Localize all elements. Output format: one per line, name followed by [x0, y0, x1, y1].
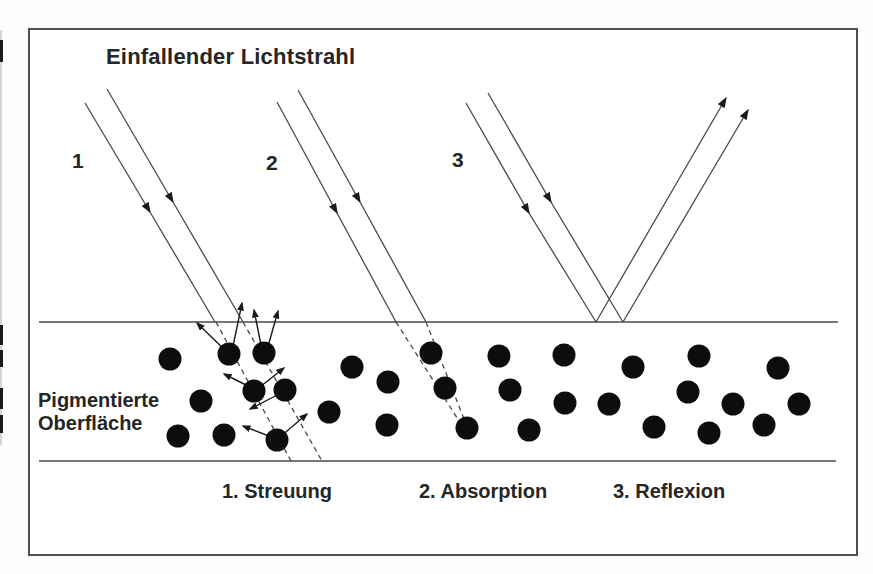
pigment-dot	[698, 422, 721, 445]
absorbed-ray-dashed-2	[426, 322, 464, 419]
pigment-dot	[598, 393, 621, 416]
page: { "labels": { "title": "Einfallender Lic…	[0, 0, 873, 574]
pigment-dot	[488, 345, 511, 368]
reflected-ray-1	[596, 98, 726, 322]
caption-scattering: 1. Streuung	[222, 480, 332, 503]
incident-ray-1-right-a	[107, 89, 173, 202]
pigment-dot	[190, 390, 213, 413]
title-incident-light-beam: Einfallender Lichtstrahl	[106, 44, 355, 70]
incident-ray-1-left-b	[150, 212, 215, 322]
pigment-dot	[420, 342, 443, 365]
incident-ray-2-left-b	[337, 213, 396, 322]
incident-ray-1-right-b	[173, 202, 243, 322]
pigment-dot	[159, 348, 182, 371]
pigment-dot	[167, 425, 190, 448]
incident-ray-3-left-b	[529, 213, 596, 322]
pigment-dot	[622, 356, 645, 379]
absorbed-ray-dashed-1	[396, 322, 461, 424]
pigment-dot	[677, 381, 700, 404]
incident-ray-2-left-a	[277, 102, 337, 213]
incident-ray-2-right-a	[298, 90, 360, 202]
pigment-dot	[341, 356, 364, 379]
incident-ray-3-right-b	[551, 202, 623, 322]
incident-ray-1-left-a	[85, 103, 150, 212]
ray-number-2: 2	[266, 151, 278, 175]
pigment-dot	[722, 393, 745, 416]
pigment-dot	[554, 392, 577, 415]
incident-ray-2-right-b	[360, 202, 426, 322]
caption-reflection: 3. Reflexion	[613, 480, 725, 503]
pigment-dot	[643, 416, 666, 439]
pigment-dot	[553, 344, 576, 367]
pigment-dot	[213, 424, 236, 447]
pigment-dot	[274, 379, 297, 402]
caption-absorption: 2. Absorption	[419, 480, 547, 503]
reflected-ray-2	[623, 110, 748, 322]
pigment-dot	[688, 345, 711, 368]
pigment-dot	[318, 401, 341, 424]
pigment-dot	[243, 380, 266, 403]
pigment-dot	[253, 342, 276, 365]
ray-number-3: 3	[452, 148, 464, 172]
incident-ray-3-right-a	[488, 93, 551, 202]
label-pigmented-surface: Pigmentierte Oberfläche	[38, 389, 159, 435]
ray-number-1: 1	[72, 149, 84, 173]
pigment-dot	[434, 377, 457, 400]
pigment-dot	[788, 393, 811, 416]
pigment-dot	[266, 429, 289, 452]
pigment-dot	[376, 414, 399, 437]
pigment-dot	[499, 379, 522, 402]
pigment-dot	[456, 417, 479, 440]
pigment-dot	[218, 343, 241, 366]
pigment-dot	[518, 419, 541, 442]
pigment-dot	[767, 357, 790, 380]
pigment-dot	[377, 371, 400, 394]
pigment-dot	[753, 414, 776, 437]
incident-ray-3-left-a	[466, 103, 529, 213]
